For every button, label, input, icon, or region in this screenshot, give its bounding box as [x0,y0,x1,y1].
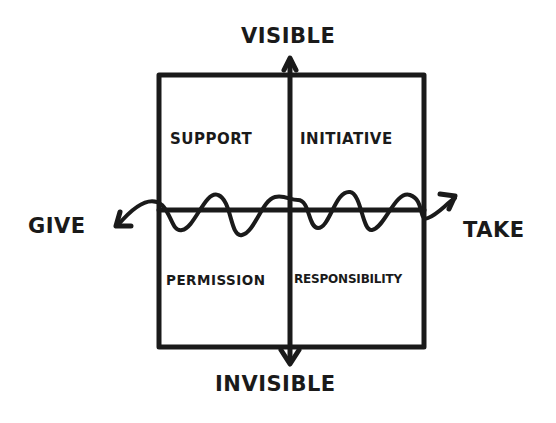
axis-label-bottom: INVISIBLE [215,372,336,396]
axis-label-top: VISIBLE [241,24,335,48]
quadrant-diagram [0,0,556,423]
axis-label-right: TAKE [463,218,525,242]
axis-label-left: GIVE [28,214,86,238]
wavy-line [118,192,455,235]
quadrant-label-initiative: INITIATIVE [300,130,393,148]
quadrant-label-support: SUPPORT [170,130,252,148]
quadrant-label-responsibility: RESPONSIBILITY [294,272,402,286]
quadrant-label-permission: PERMISSION [166,272,266,288]
